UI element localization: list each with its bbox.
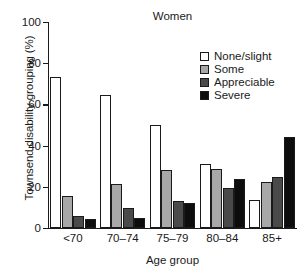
legend-item: Severe [200,89,275,101]
chart-figure: Women Townsend disability grouping (%) 0… [0,0,306,279]
x-axis-label: Age group [48,254,297,266]
bar [249,200,260,228]
x-tick-label: 80–84 [206,232,238,244]
legend-swatch-icon [200,65,209,74]
bar [211,169,222,228]
bar [111,184,122,228]
bar [284,137,295,228]
bar [150,125,161,228]
bar [123,208,134,228]
bar [272,177,283,229]
legend-label: Appreciable [214,77,275,88]
bar-group [150,22,196,228]
y-tick-label: 60 [28,98,41,110]
bar [200,164,211,228]
legend-swatch-icon [200,91,209,100]
legend-swatch-icon [200,78,209,87]
bar-group [50,22,96,228]
bar [73,216,84,228]
bar [234,179,245,228]
y-tick-label: 80 [28,57,41,69]
bar-group [100,22,146,228]
legend-item: None/slight [200,50,275,62]
bar [173,201,184,228]
bar [261,182,272,228]
bar [184,203,195,228]
y-tick-mark [43,228,48,229]
chart-title: Women [48,10,297,22]
legend-label: None/slight [214,51,272,62]
legend-item: Some [200,63,275,75]
y-tick-label: 20 [28,181,41,193]
legend-swatch-icon [200,52,209,61]
y-tick-label: 100 [22,16,41,28]
x-tick-label: 75–79 [157,232,189,244]
bar [50,77,61,228]
bar [62,196,73,228]
x-tick-label: <70 [63,232,83,244]
legend-label: Severe [214,90,250,101]
bar [134,218,145,228]
y-tick-label: 40 [28,140,41,152]
y-tick-label: 0 [35,222,41,234]
x-tick-label: 70–74 [107,232,139,244]
bar [85,219,96,228]
x-tick-label: 85+ [262,232,282,244]
legend-label: Some [214,64,244,75]
y-axis-label: Townsend disability grouping (%) [23,10,35,226]
bar [100,95,111,228]
chart-legend: None/slightSomeAppreciableSevere [200,50,275,101]
bar [223,188,234,228]
bar [161,170,172,228]
legend-item: Appreciable [200,76,275,88]
x-axis-line [48,228,297,229]
